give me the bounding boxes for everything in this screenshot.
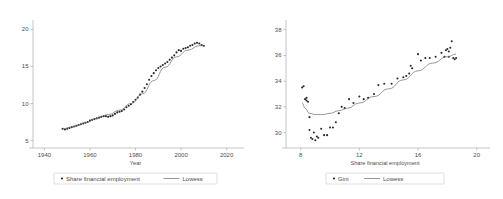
x-axis-title: Year (130, 160, 141, 166)
x-tick-label: 2000 (174, 152, 188, 158)
data-point (182, 48, 184, 50)
chart-panel-left: 510152019401960198020002020YearShare fin… (0, 0, 252, 199)
data-point (308, 116, 310, 118)
data-point (178, 49, 180, 51)
data-point (306, 101, 308, 103)
data-point (372, 93, 374, 95)
data-point (358, 96, 360, 98)
data-point (128, 105, 130, 107)
data-point (314, 139, 316, 141)
data-point (198, 42, 200, 44)
data-point (308, 129, 310, 131)
data-point (352, 102, 354, 104)
x-tick-label: 1980 (129, 152, 143, 158)
data-point (119, 111, 121, 113)
x-tick-label: 12 (355, 152, 362, 158)
scatter-points (62, 42, 205, 131)
data-point (377, 84, 379, 86)
legend-marker-dot (61, 177, 63, 179)
legend-label: Lowess (183, 176, 203, 182)
data-point (185, 47, 187, 49)
data-point (160, 65, 162, 67)
data-point (109, 115, 111, 117)
data-point (396, 78, 398, 80)
data-point (348, 98, 350, 100)
data-point (449, 47, 451, 49)
data-point (141, 91, 143, 93)
data-point (164, 62, 166, 64)
data-point (155, 69, 157, 71)
data-point (446, 48, 448, 50)
data-point (166, 61, 168, 63)
data-point (383, 83, 385, 85)
data-point (114, 113, 116, 115)
data-point (173, 54, 175, 56)
chart-panel-right: 30323436388121620Share financial employm… (252, 0, 503, 199)
data-point (390, 83, 392, 85)
data-point (405, 75, 407, 77)
x-tick-label: 1940 (38, 152, 52, 158)
data-point (323, 134, 325, 136)
data-point (191, 44, 193, 46)
data-point (408, 72, 410, 74)
data-point (320, 128, 322, 130)
x-tick-label: 1960 (83, 152, 97, 158)
data-point (162, 64, 164, 66)
data-point (402, 76, 404, 78)
y-tick-label: 36 (274, 52, 281, 58)
data-point (150, 75, 152, 77)
data-point (169, 59, 171, 61)
x-tick-label: 16 (414, 152, 421, 158)
data-point (340, 106, 342, 108)
y-tick-label: 32 (274, 104, 281, 110)
y-tick-label: 15 (22, 63, 29, 69)
legend-marker-dot (332, 177, 334, 179)
legend-label: Gini (338, 176, 349, 182)
data-point (317, 137, 319, 139)
data-point (455, 57, 457, 59)
legend-label: Share financial employment (66, 176, 140, 182)
data-point (116, 111, 118, 113)
data-point (107, 116, 109, 118)
data-point (411, 67, 413, 69)
data-point (180, 50, 182, 52)
data-point (305, 97, 307, 99)
data-point (362, 98, 364, 100)
data-point (434, 56, 436, 58)
data-point (440, 52, 442, 54)
x-tick-label: 8 (298, 152, 302, 158)
left-scatter-plot: 510152019401960198020002020YearShare fin… (0, 0, 252, 199)
data-point (194, 42, 196, 44)
right-scatter-plot: 30323436388121620Share financial employm… (252, 0, 503, 199)
data-point (153, 72, 155, 74)
data-point (331, 126, 333, 128)
data-point (326, 134, 328, 136)
y-tick-label: 20 (22, 26, 29, 32)
data-point (148, 79, 150, 81)
legend-label: Lowess (383, 176, 403, 182)
data-point (447, 51, 449, 53)
data-point (112, 114, 114, 116)
y-tick-label: 10 (22, 101, 29, 107)
figure-container: 510152019401960198020002020YearShare fin… (0, 0, 503, 199)
data-point (146, 83, 148, 85)
data-point (144, 87, 146, 89)
data-point (337, 112, 339, 114)
data-point (189, 45, 191, 47)
y-tick-label: 38 (274, 27, 281, 33)
data-point (157, 67, 159, 69)
data-point (187, 46, 189, 48)
data-point (171, 57, 173, 59)
data-point (428, 57, 430, 59)
data-point (334, 121, 336, 123)
lowess-curve (63, 46, 204, 129)
y-tick-label: 30 (274, 130, 281, 136)
y-tick-label: 5 (25, 138, 29, 144)
data-point (196, 42, 198, 44)
data-point (328, 126, 330, 128)
data-point (450, 40, 452, 42)
data-point (419, 60, 421, 62)
x-tick-label: 20 (473, 152, 480, 158)
data-point (175, 51, 177, 53)
scatter-points (301, 40, 457, 141)
